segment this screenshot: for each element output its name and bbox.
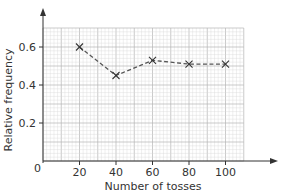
x-axis-label: Number of tosses [105, 180, 202, 193]
origin-label: 0 [34, 162, 41, 175]
x-tick-label: 80 [182, 166, 196, 179]
x-tick-label: 20 [73, 166, 87, 179]
y-tick-label: 0.4 [19, 79, 37, 92]
y-tick-label: 0.2 [19, 117, 37, 130]
y-axis-label: Relative frequency [2, 48, 15, 152]
x-axis-arrow-icon [270, 158, 278, 164]
ticks: 204060801000.20.40.6 [19, 41, 237, 179]
x-tick-label: 60 [146, 166, 160, 179]
y-axis-arrow-icon [40, 8, 46, 16]
y-tick-label: 0.6 [19, 41, 37, 54]
relative-frequency-chart: 204060801000.20.40.6 0 Number of tosses … [0, 0, 285, 195]
x-tick-label: 100 [215, 166, 236, 179]
grid [43, 28, 244, 161]
x-tick-label: 40 [109, 166, 123, 179]
